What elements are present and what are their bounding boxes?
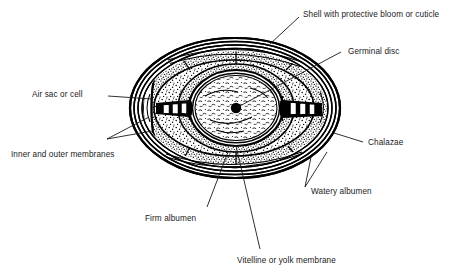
label-vitelline-membrane: Vitelline or yolk membrane — [237, 256, 336, 266]
label-firm-albumen: Firm albumen — [145, 214, 196, 224]
label-watery-albumen: Watery albumen — [311, 187, 372, 197]
egg-structure-diagram: Shell with protective bloom or cuticle G… — [0, 0, 470, 280]
label-shell: Shell with protective bloom or cuticle — [303, 10, 439, 20]
label-chalazae: Chalazae — [368, 138, 403, 148]
label-germinal-disc: Germinal disc — [348, 47, 399, 57]
egg-body — [130, 38, 340, 178]
leader-chalazae — [334, 133, 363, 142]
label-air-sac: Air sac or cell — [32, 90, 83, 100]
label-membranes: Inner and outer membranes — [11, 150, 115, 160]
leader-shell — [270, 17, 299, 44]
